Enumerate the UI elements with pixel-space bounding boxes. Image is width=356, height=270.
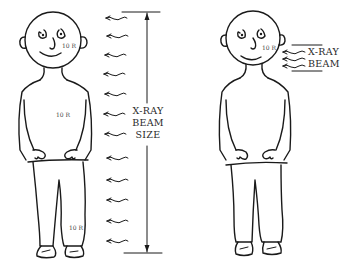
wavy-arrow-icon: [107, 34, 128, 38]
arrowhead-down-icon: [145, 245, 150, 252]
beam-size-dimension: X-RAY BEAM SIZE: [122, 12, 164, 253]
wavy-arrow-icon: [105, 53, 126, 57]
right-beam-label-line2: BEAM: [308, 58, 340, 69]
beam-size-label-line3: SIZE: [136, 129, 161, 140]
arrowhead-up-icon: [145, 13, 150, 20]
wavy-arrow-icon: [107, 239, 128, 243]
right-beam-label-line1: X-RAY: [308, 46, 339, 57]
wavy-arrow-icon: [105, 92, 126, 96]
right-head-dose-label: 10 R: [262, 44, 277, 51]
wavy-arrow-icon: [106, 16, 127, 20]
left-figure: 10 R 10 R 10 R: [19, 12, 92, 258]
left-xray-arrows: [104, 16, 128, 243]
wavy-arrow-icon: [283, 64, 305, 68]
wavy-arrow-icon: [107, 178, 128, 182]
wavy-arrow-icon: [283, 50, 305, 54]
wavy-arrow-icon: [283, 57, 305, 61]
wavy-arrow-icon: [105, 132, 126, 136]
left-leg-dose-label: 10 R: [69, 224, 84, 231]
beam-size-label-line1: X-RAY: [132, 105, 163, 116]
xray-beam-size-diagram: 10 R 10 R 10 R X-RAY BEAM SIZE: [0, 0, 356, 270]
left-torso-dose-label: 10 R: [56, 111, 71, 118]
wavy-arrow-icon: [104, 72, 125, 76]
right-xray-beam: X-RAY BEAM: [283, 45, 340, 71]
wavy-arrow-icon: [107, 219, 128, 223]
wavy-arrow-icon: [107, 198, 128, 202]
beam-size-label-line2: BEAM: [132, 117, 164, 128]
right-figure: 10 R: [219, 11, 290, 256]
wavy-arrow-icon: [107, 156, 128, 160]
wavy-arrow-icon: [104, 112, 125, 116]
left-head-dose-label: 10 R: [62, 42, 77, 49]
